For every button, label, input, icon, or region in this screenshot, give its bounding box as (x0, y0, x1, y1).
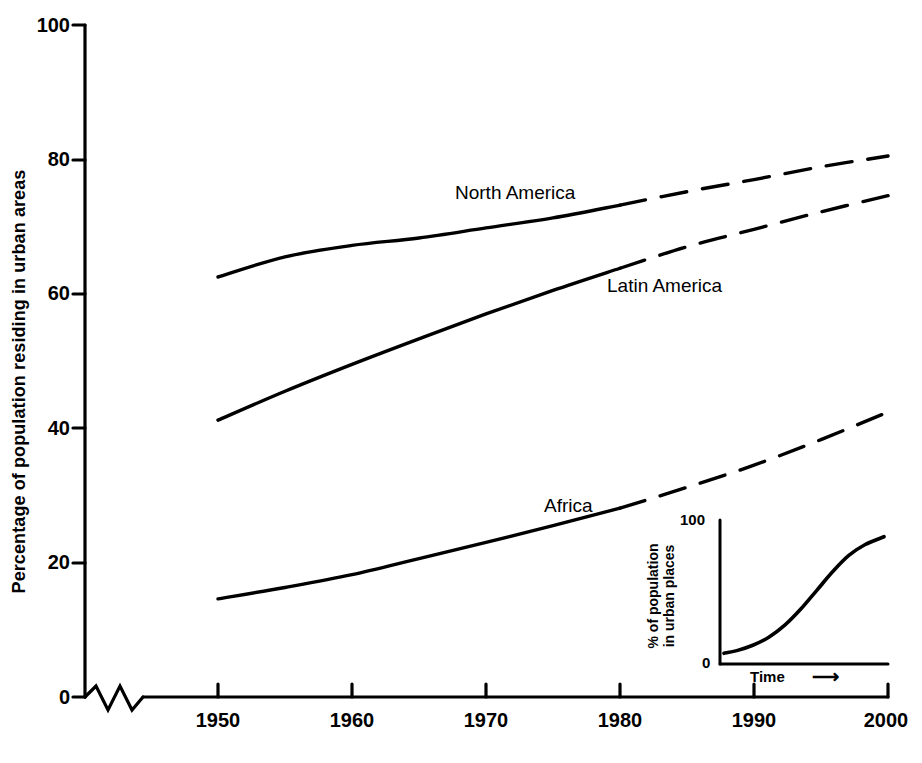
axis-break-zigzag (85, 686, 143, 710)
inset-chart: % of population in urban places 100 0 Ti… (640, 508, 910, 698)
chart-figure: Percentage of population residing in urb… (0, 0, 922, 763)
series-line-latin-america-observed (218, 268, 620, 420)
series-line-north-america-observed (218, 205, 620, 277)
series-line-africa-observed (218, 508, 620, 599)
inset-series-line (724, 537, 884, 654)
series-line-latin-america-projected (620, 196, 888, 269)
series-line-africa-projected (620, 412, 888, 508)
series-line-north-america-projected (620, 156, 888, 205)
inset-plot-area (640, 508, 910, 698)
